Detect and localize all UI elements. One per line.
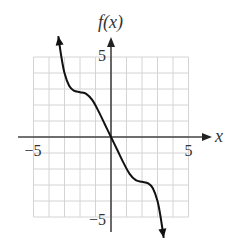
svg-text:−5: −5	[25, 142, 42, 159]
y-axis-label: f(x)	[98, 12, 123, 33]
svg-text:5: 5	[98, 47, 106, 64]
svg-text:−5: −5	[89, 211, 106, 228]
axes	[18, 37, 212, 232]
x-axis-label: x	[214, 126, 223, 146]
function-graph: −555−5 f(x) x	[0, 0, 230, 247]
svg-text:5: 5	[185, 142, 193, 159]
